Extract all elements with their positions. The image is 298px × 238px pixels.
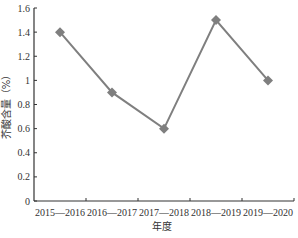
y-tick-label: 0.4 [18,147,31,158]
x-axis-title: 年度 [152,220,172,232]
y-axis-title: 芥酸含量（%） [0,70,12,140]
x-tick-label: 2017—2018 [139,207,189,218]
x-tick-label: 2018—2019 [191,207,241,218]
y-tick-label: 0.6 [18,123,31,134]
y-tick-label: 1.6 [18,3,31,14]
series-line [55,15,273,134]
x-tick-label: 2019—2020 [243,207,293,218]
y-axis: 00.20.40.60.811.21.41.6 [18,3,38,207]
y-tick-label: 1 [25,75,30,86]
y-tick-label: 0.8 [18,99,31,110]
y-tick-label: 1.4 [18,27,31,38]
y-tick-label: 1.2 [18,51,31,62]
y-tick-label: 0.2 [18,171,31,182]
line-chart: 00.20.40.60.811.21.41.6 2015—20162016—20… [0,0,298,238]
y-tick-label: 0 [25,196,30,207]
x-tick-label: 2016—2017 [87,207,137,218]
x-axis: 2015—20162016—20172017—20182018—20192019… [34,198,294,218]
x-tick-label: 2015—2016 [35,207,85,218]
